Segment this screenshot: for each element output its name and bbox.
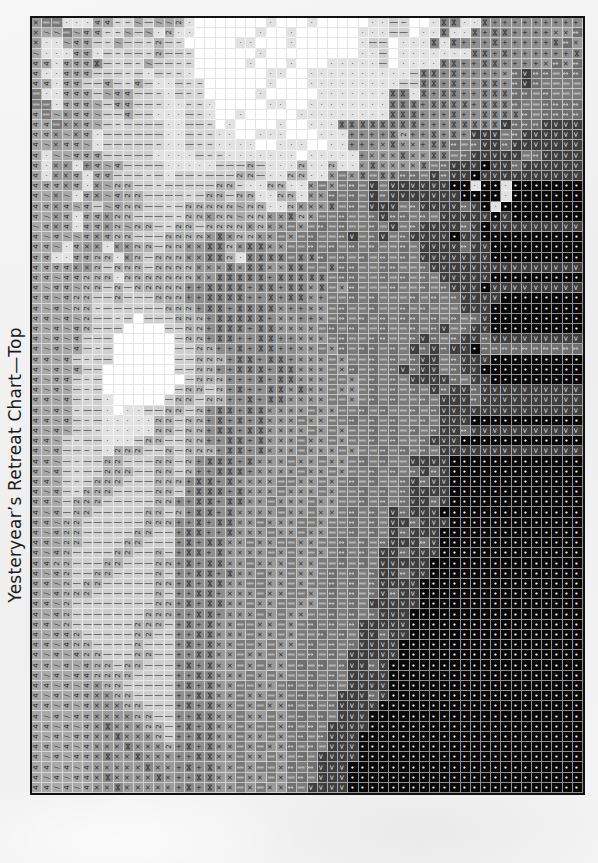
pattern-cell: × [226, 711, 236, 721]
pattern-cell: • [552, 732, 562, 742]
stitch-symbol: • [472, 673, 479, 677]
stitch-symbol: × [380, 162, 387, 168]
stitch-symbol: ⋈ [186, 702, 193, 709]
pattern-cell: ⋈ [236, 497, 246, 507]
stitch-symbol: × [94, 744, 101, 750]
pattern-cell: │ [175, 436, 185, 446]
pattern-cell: + [205, 426, 215, 436]
pattern-cell: ‖ [236, 783, 246, 793]
stitch-symbol: × [268, 407, 275, 413]
pattern-cell: 4 [63, 89, 73, 99]
pattern-cell: 2 [134, 263, 144, 273]
stitch-symbol: 2 [176, 408, 183, 412]
pattern-cell: ‖ [379, 304, 389, 314]
stitch-symbol: ≀ [74, 470, 81, 473]
pattern-cell: ‖ [430, 395, 440, 405]
pattern-cell: ⋈ [277, 385, 287, 395]
pattern-cell [103, 375, 113, 385]
stitch-symbol: × [125, 754, 132, 760]
stitch-symbol: • [564, 296, 571, 300]
pattern-cell: 4 [93, 151, 103, 161]
pattern-cell: 4 [52, 406, 62, 416]
pattern-cell: ↕ [573, 344, 583, 354]
stitch-symbol: ‖ [43, 21, 50, 25]
stitch-symbol: ‖ [339, 378, 346, 382]
stitch-symbol: < [472, 428, 479, 434]
stitch-symbol: ↕ [502, 142, 509, 148]
pattern-cell: ↕ [542, 344, 552, 354]
pattern-cell: • [491, 599, 501, 609]
pattern-cell: ‖ [328, 385, 338, 395]
pattern-cell: · [256, 89, 266, 99]
pattern-cell: 2 [93, 497, 103, 507]
stitch-symbol: ‖ [360, 398, 367, 402]
pattern-cell: × [267, 558, 277, 568]
pattern-cell: + [205, 324, 215, 334]
stitch-symbol: • [451, 490, 458, 494]
pattern-cell: • [410, 620, 420, 630]
pattern-cell: ⋈ [185, 701, 195, 711]
pattern-cell: ‖ [328, 375, 338, 385]
stitch-symbol: < [451, 213, 458, 219]
pattern-cell: │ [154, 671, 164, 681]
stitch-symbol: ‖ [339, 184, 346, 188]
pattern-cell: • [471, 191, 481, 201]
stitch-symbol: • [513, 510, 520, 514]
pattern-cell: │ [124, 120, 134, 130]
pattern-cell: < [461, 395, 471, 405]
stitch-symbol: < [543, 224, 550, 230]
stitch-symbol: ‖ [380, 225, 387, 229]
pattern-cell: < [430, 487, 440, 497]
stitch-symbol: • [513, 561, 520, 565]
pattern-cell: ↕ [369, 385, 379, 395]
stitch-symbol: ‖ [411, 255, 418, 259]
stitch-symbol: • [553, 439, 560, 443]
stitch-symbol: + [196, 295, 203, 301]
stitch-symbol: < [360, 631, 367, 637]
pattern-cell: • [522, 314, 532, 324]
stitch-symbol: │ [64, 469, 71, 473]
stitch-symbol: < [349, 733, 356, 739]
pattern-cell: × [277, 222, 287, 232]
stitch-symbol: • [574, 469, 581, 473]
pattern-cell: ‖ [267, 497, 277, 507]
stitch-symbol: < [370, 652, 377, 658]
pattern-cell: • [512, 773, 522, 783]
stitch-symbol: × [329, 173, 336, 179]
stitch-symbol: · [115, 429, 122, 431]
pattern-cell: ‖ [318, 742, 328, 752]
stitch-symbol: < [451, 162, 458, 168]
stitch-symbol: ‖ [400, 378, 407, 382]
stitch-symbol: + [278, 285, 285, 291]
pattern-cell: • [501, 701, 511, 711]
stitch-symbol: │ [135, 479, 142, 483]
stitch-symbol: • [564, 643, 571, 647]
stitch-symbol: ↕ [390, 468, 397, 474]
stitch-symbol: / [74, 725, 81, 727]
pattern-cell: < [430, 548, 440, 558]
stitch-symbol: < [411, 581, 418, 587]
pattern-cell: │ [93, 355, 103, 365]
pattern-cell: ↕ [532, 151, 542, 161]
stitch-symbol: ⋈ [451, 39, 458, 46]
stitch-symbol: < [564, 448, 571, 454]
stitch-symbol: < [451, 397, 458, 403]
pattern-cell: ↕ [430, 324, 440, 334]
stitch-symbol: · [441, 42, 448, 44]
pattern-cell: • [481, 671, 491, 681]
stitch-symbol: + [237, 336, 244, 342]
stitch-symbol: < [462, 336, 469, 342]
stitch-symbol: 2 [247, 163, 254, 167]
pattern-cell: ‖ [359, 273, 369, 283]
stitch-symbol: 2 [145, 612, 152, 616]
pattern-cell: │ [144, 487, 154, 497]
pattern-cell: ⋈ [256, 426, 266, 436]
pattern-cell: • [532, 722, 542, 732]
pattern-cell: │ [93, 406, 103, 416]
stitch-symbol: ⋈ [502, 111, 509, 118]
pattern-cell: ‖ [256, 722, 266, 732]
pattern-cell: • [552, 212, 562, 222]
stitch-symbol: ⋈ [156, 774, 163, 781]
stitch-symbol: 2 [94, 663, 101, 667]
pattern-cell: • [522, 773, 532, 783]
